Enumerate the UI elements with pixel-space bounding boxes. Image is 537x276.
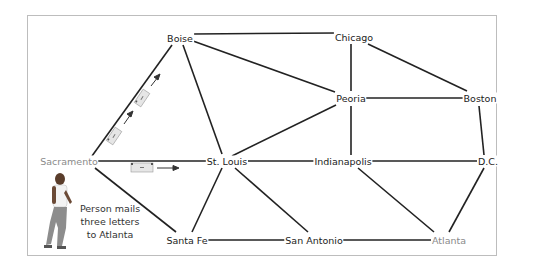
letter-to-stlouis bbox=[131, 163, 179, 172]
edge-stlouis-sanantonio bbox=[235, 168, 308, 232]
envelope-icon bbox=[131, 163, 153, 172]
edge-boise-sacramento bbox=[92, 45, 172, 156]
edge-boise-chicago bbox=[193, 33, 336, 34]
edge-peoria-stlouis bbox=[232, 105, 336, 156]
node-sanantonio: San Antonio bbox=[284, 235, 343, 246]
arrow-icon bbox=[157, 166, 179, 171]
edge-boise-stlouis bbox=[183, 45, 222, 154]
caption: Person mails three letters to Atlanta bbox=[79, 202, 141, 241]
envelope-icon bbox=[134, 89, 150, 107]
caption-line: Person mails bbox=[79, 202, 141, 215]
node-santafe: Santa Fe bbox=[165, 235, 208, 246]
node-atlanta: Atlanta bbox=[431, 235, 467, 246]
arrow-icon bbox=[124, 111, 133, 124]
caption-line: to Atlanta bbox=[79, 228, 141, 241]
caption-line: three letters bbox=[79, 215, 141, 228]
node-peoria: Peoria bbox=[335, 93, 366, 104]
edge-boise-peoria bbox=[193, 41, 335, 92]
edge-chicago-boston bbox=[368, 44, 467, 91]
edge-dc-atlanta bbox=[449, 168, 484, 232]
node-boise: Boise bbox=[166, 33, 194, 44]
node-stlouis: St. Louis bbox=[206, 156, 248, 167]
node-chicago: Chicago bbox=[334, 32, 374, 43]
envelope-icon bbox=[106, 127, 122, 145]
edge-indianapolis-atlanta bbox=[358, 168, 434, 232]
node-indianapolis: Indianapolis bbox=[313, 156, 372, 167]
edge-boston-dc bbox=[479, 106, 484, 155]
edge-stlouis-santafe bbox=[192, 168, 222, 232]
node-sacramento: Sacramento bbox=[39, 156, 98, 167]
letters-to-boise bbox=[106, 74, 160, 145]
arrow-icon bbox=[151, 74, 160, 86]
person-icon bbox=[44, 173, 72, 249]
node-boston: Boston bbox=[463, 93, 498, 104]
node-dc: D.C. bbox=[477, 156, 499, 167]
